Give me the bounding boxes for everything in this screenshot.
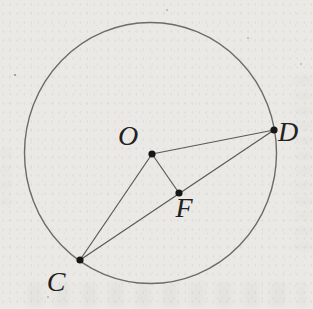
point-D-dot: [270, 126, 277, 133]
point-O-dot: [148, 150, 155, 157]
label-C: C: [47, 266, 66, 297]
segment-O-C: [80, 154, 152, 260]
label-F: F: [174, 192, 193, 223]
scanned-page: O D F C: [0, 0, 313, 309]
segment-O-F: [152, 154, 179, 193]
circle-diagram: O D F C: [0, 0, 313, 309]
label-O: O: [118, 120, 138, 151]
label-D: D: [277, 116, 298, 147]
point-C-dot: [76, 256, 83, 263]
